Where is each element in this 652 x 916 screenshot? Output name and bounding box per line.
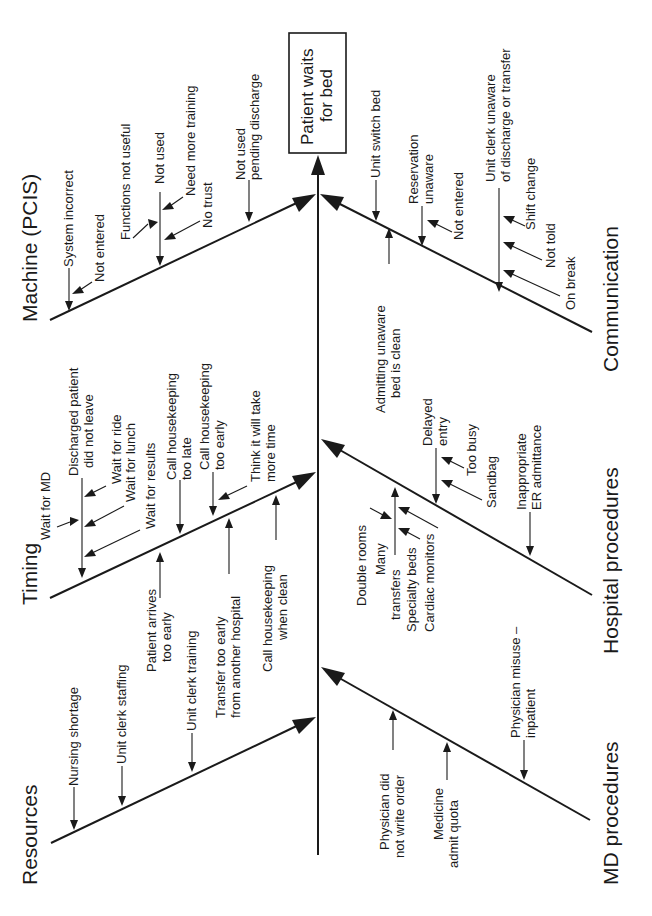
arrowhead-icon [443, 742, 451, 752]
cause-label: Reservation [406, 135, 421, 204]
cause-label: Double rooms [354, 525, 369, 606]
cause-label: Need more training [183, 85, 198, 196]
arrowhead-icon [272, 495, 280, 505]
cause-label: Wait for lunch [123, 423, 138, 502]
cause-label: Admitting unaware [373, 305, 388, 413]
cause-label: inpatient [523, 688, 538, 738]
cause-label: entry [435, 417, 450, 446]
cause-label: from another hospital [228, 596, 243, 718]
arrowhead-icon [321, 439, 345, 458]
cause-label: Inappropriate [514, 433, 529, 510]
cause-label: Think it will take [248, 390, 263, 482]
arrowhead-icon [526, 546, 534, 556]
arrowhead-icon [218, 492, 230, 500]
effect-label-line2: for bed [317, 69, 336, 122]
cause-label: Not entered [451, 172, 466, 240]
cause-label: did not leave [81, 394, 96, 468]
cause-label: Nursing shortage [66, 687, 81, 786]
arrowhead-icon [72, 286, 84, 294]
arrowhead-icon [156, 256, 164, 266]
category-label-timing: Timing [18, 543, 41, 605]
arrowhead-icon [164, 232, 176, 240]
arrowhead-icon [398, 528, 410, 536]
category-label-md-procedures: MD procedures [599, 741, 622, 885]
arrowhead-icon [391, 487, 399, 497]
category-machine: Machine (PCIS) System incorrect Not ente… [18, 74, 316, 322]
arrowhead-icon [209, 506, 217, 516]
cause-label: Patient arrives [144, 588, 159, 672]
cause-label: Transfer too early [213, 616, 228, 718]
arrowhead-icon [84, 489, 96, 497]
arrowhead-icon [156, 552, 164, 562]
cause-label: Call housekeeping [197, 363, 212, 470]
cause-label: too early [159, 612, 174, 662]
cause-label: Wait for MD [38, 472, 53, 540]
cause-label: Unit clerk staffing [114, 665, 129, 764]
category-communication: Communication Unit switch bed Reservatio… [320, 48, 622, 413]
cause-label: Physician misuse – [508, 626, 523, 738]
arrowhead-icon [84, 549, 96, 557]
cause-label: Wait for results [143, 442, 158, 529]
cause-label: Specialty beds [404, 547, 419, 632]
cause-label: Not used [152, 132, 167, 184]
cause-label: Physician did [377, 773, 392, 850]
effect-box: Patient waits for bed [289, 33, 346, 153]
arrowhead-icon [188, 762, 196, 772]
cause-label: too late [179, 437, 194, 480]
cause-label: Delayed [420, 398, 435, 446]
cause-label: Not entered [92, 214, 107, 282]
cause-label: unaware [421, 154, 436, 204]
cause-label: Not told [543, 223, 558, 268]
cause-label: transfers [388, 569, 403, 620]
cause-label: when clean [275, 574, 290, 641]
category-label-hospital-procedures: Hospital procedures [599, 467, 622, 654]
arrowhead-icon [520, 770, 528, 780]
arrowhead-icon [225, 518, 233, 528]
cause-label: Wait for ride [109, 414, 124, 484]
arrowhead-icon [70, 820, 78, 830]
effect-label-line1: Patient waits [298, 49, 317, 145]
arrowhead-icon [372, 211, 380, 221]
arrowhead-icon [176, 524, 184, 534]
cause-label: admit quota [446, 799, 461, 868]
cause-label: No trust [200, 182, 215, 228]
arrowhead-icon [292, 717, 316, 734]
cause-label: Not used [233, 128, 248, 180]
category-label-resources: Resources [18, 785, 41, 885]
cause-label: Unit clerk training [184, 631, 199, 731]
cause-label: too early [212, 420, 227, 470]
cause-label: Unit switch bed [368, 90, 383, 178]
cause-label: of discharge or transfer [498, 48, 513, 182]
cause-label: Medicine [431, 788, 446, 840]
cause-label: Many [373, 543, 388, 575]
category-hospital-procedures: Hospital procedures Delayed entry Too bu… [321, 398, 622, 654]
cause-label: more time [263, 424, 278, 482]
cause-label: not write order [392, 774, 407, 858]
cause-label: Functions not useful [118, 124, 133, 240]
cause-label: bed is clean [388, 329, 403, 398]
arrowhead-icon [78, 568, 86, 578]
arrowhead-icon [321, 667, 345, 686]
cause-label: Too busy [464, 423, 479, 476]
cause-label: System incorrect [61, 170, 76, 267]
arrowhead-icon [245, 212, 253, 222]
cause-label: Cardiac monitors [422, 533, 437, 632]
category-md-procedures: MD procedures Physician did not write or… [321, 626, 622, 885]
spine-arrowhead-icon [311, 155, 325, 175]
arrowhead-icon [70, 517, 79, 526]
arrowhead-icon [118, 796, 126, 806]
arrowhead-icon [320, 194, 344, 211]
category-label-communication: Communication [599, 226, 622, 372]
arrowhead-icon [292, 472, 316, 490]
cause-label: Call housekeeping [164, 373, 179, 480]
spine [311, 155, 325, 855]
arrowhead-icon [148, 219, 158, 229]
cause-label: Shift change [523, 158, 538, 230]
category-timing: Timing Discharged patient did not leave … [18, 363, 316, 718]
arrowhead-icon [398, 507, 410, 515]
category-label-machine: Machine (PCIS) [18, 174, 41, 322]
fishbone-diagram: Patient waits for bed Machine (PCIS) Sys… [0, 0, 652, 916]
arrowhead-icon [162, 202, 174, 210]
cause-label: Discharged patient [66, 367, 81, 476]
arrowhead-icon [292, 194, 316, 212]
